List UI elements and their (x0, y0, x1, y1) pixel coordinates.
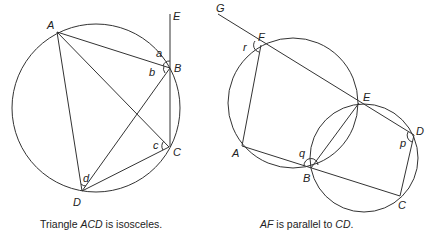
point-label-D: D (73, 196, 81, 208)
line-FA (242, 45, 261, 146)
point-label-D: D (416, 125, 424, 137)
circle-BCDE (310, 104, 418, 212)
angle-c-arc (162, 141, 164, 150)
angle-label-c: c (153, 139, 159, 151)
point-label-C: C (398, 199, 406, 211)
line-DC (82, 147, 169, 191)
point-label-B: B (174, 62, 181, 74)
angle-label-q: q (299, 147, 306, 159)
angle-label-b: b (149, 66, 155, 78)
left-circle (12, 24, 180, 192)
point-label-G: G (216, 2, 225, 14)
angle-label-a: a (156, 47, 162, 59)
angle-label-r: r (243, 41, 248, 53)
left-diagram: A B C D E a b c d Triangle ACD is isosce… (12, 10, 181, 230)
line-AD (57, 32, 82, 191)
angle-q-arc (304, 158, 318, 166)
point-label-A: A (231, 147, 239, 159)
point-label-F: F (258, 31, 266, 43)
right-caption: AF is parallel to CD. (259, 218, 353, 230)
point-label-E: E (173, 10, 181, 22)
angle-label-d: d (83, 172, 90, 184)
point-label-E: E (363, 91, 371, 103)
left-caption: Triangle ACD is isosceles. (40, 218, 162, 230)
line-ABC (242, 146, 400, 196)
point-label-C: C (173, 146, 181, 158)
point-label-A: A (46, 19, 54, 31)
line-DB (82, 68, 170, 191)
angle-label-p: p (399, 137, 406, 149)
angle-d-arc (81, 184, 86, 186)
point-label-B: B (303, 172, 310, 184)
geometry-diagrams: A B C D E a b c d Triangle ACD is isosce… (0, 0, 431, 237)
angle-b-arc (163, 66, 165, 73)
right-diagram: G F E D C B A p q r AF is parallel to CD… (216, 2, 424, 230)
line-AC (57, 32, 169, 147)
angle-a-arc (163, 61, 170, 66)
circle-ABEF (228, 38, 358, 168)
